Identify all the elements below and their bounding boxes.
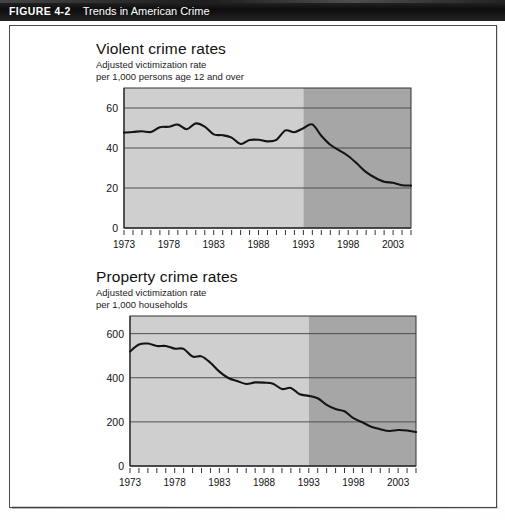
xtick-label-1978: 1978 <box>158 239 181 250</box>
panel-violent-crime: Violent crime rates Adjusted victimizati… <box>96 40 426 262</box>
xtick-label-1988: 1988 <box>253 477 276 488</box>
xtick-label-1998: 1998 <box>342 477 365 488</box>
xtick-label-1973: 1973 <box>119 477 142 488</box>
panel-property-title: Property crime rates <box>96 268 426 286</box>
chart-violent-crime-svg: 02040601973197819831988199319982003 <box>96 82 426 254</box>
xtick-label-2003: 2003 <box>382 239 405 250</box>
xtick-label-2003: 2003 <box>387 477 410 488</box>
panel-property-subtitle-line2: per 1,000 households <box>96 299 426 311</box>
ytick-label-600: 600 <box>106 328 124 340</box>
xtick-label-1993: 1993 <box>292 239 315 250</box>
ytick-label-200: 200 <box>106 416 124 428</box>
chart-shade-band-light <box>124 88 303 228</box>
xtick-label-1978: 1978 <box>164 477 187 488</box>
ytick-label-20: 20 <box>106 182 118 194</box>
xtick-label-1998: 1998 <box>337 239 360 250</box>
figure-root: FIGURE 4-2 Trends in American Crime Viol… <box>0 0 505 520</box>
chart-shade-band-light <box>130 316 309 466</box>
footer-scrap <box>10 508 500 520</box>
chart-shade-band-dark <box>309 316 416 466</box>
panel-violent-subtitle-line1: Adjusted victimization rate <box>96 59 426 71</box>
figure-number: FIGURE 4-2 <box>9 5 71 17</box>
xtick-label-1983: 1983 <box>203 239 226 250</box>
panel-violent-title: Violent crime rates <box>96 40 426 58</box>
panel-violent-subtitle-line2: per 1,000 persons age 12 and over <box>96 71 426 83</box>
xtick-label-1988: 1988 <box>247 239 270 250</box>
chart-violent-crime: 02040601973197819831988199319982003 <box>96 82 426 254</box>
xtick-label-1973: 1973 <box>113 239 136 250</box>
chart-property-crime-svg: 02004006001973197819831988199319982003 <box>96 310 426 492</box>
ytick-label-0: 0 <box>112 222 118 234</box>
figure-title: Trends in American Crime <box>83 5 210 17</box>
panel-property-crime: Property crime rates Adjusted victimizat… <box>96 268 426 500</box>
ytick-label-0: 0 <box>118 460 124 472</box>
ytick-label-60: 60 <box>106 102 118 114</box>
ytick-label-400: 400 <box>106 372 124 384</box>
chart-property-crime: 02004006001973197819831988199319982003 <box>96 310 426 492</box>
chart-shade-band-dark <box>303 88 411 228</box>
panel-property-subtitle-line1: Adjusted victimization rate <box>96 287 426 299</box>
xtick-label-1993: 1993 <box>298 477 321 488</box>
ytick-label-40: 40 <box>106 142 118 154</box>
xtick-label-1983: 1983 <box>208 477 231 488</box>
figure-header-bar: FIGURE 4-2 Trends in American Crime <box>0 0 505 21</box>
